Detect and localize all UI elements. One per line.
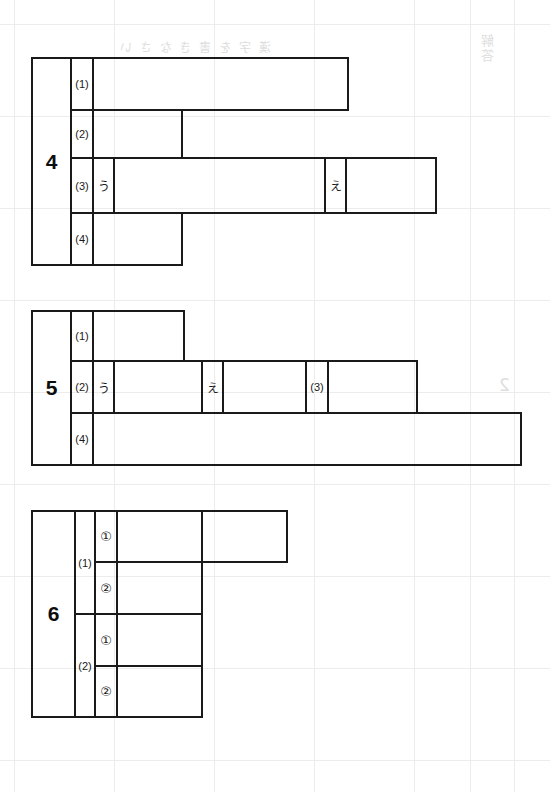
answer-cell-6-2-1[interactable] bbox=[116, 613, 203, 667]
answer-cell-6-1-1-a[interactable] bbox=[116, 510, 203, 563]
answer-cell-5-1[interactable] bbox=[92, 310, 185, 362]
answer-cell-6-1-2[interactable] bbox=[116, 561, 203, 615]
answer-cell-4-3-a[interactable] bbox=[113, 157, 326, 214]
subquestion-label-cell-4-2 bbox=[70, 109, 94, 159]
subsubquestion-label-cell-6-1-1 bbox=[94, 510, 118, 563]
subquestion-label-cell-5-1 bbox=[70, 310, 94, 362]
answer-cell-5-2-b[interactable] bbox=[222, 360, 307, 414]
answer-cell-5-4[interactable] bbox=[92, 412, 522, 466]
subquestion-label-cell-5-4 bbox=[70, 412, 94, 466]
answer-cell-4-3-b[interactable] bbox=[345, 157, 437, 214]
answer-cell-5-3[interactable] bbox=[327, 360, 418, 414]
subsubquestion-label-cell-6-1-2 bbox=[94, 561, 118, 615]
subquestion-label-cell-5-2 bbox=[70, 360, 94, 414]
subquestion-label-cell-6-1 bbox=[74, 510, 96, 615]
answer-marker-cell-5-2-u bbox=[92, 360, 115, 414]
subquestion-label-cell-4-4 bbox=[70, 212, 94, 266]
answer-marker-cell-4-3-e bbox=[324, 157, 347, 214]
subquestion-label-cell-4-3 bbox=[70, 157, 94, 214]
answer-cell-5-2-a[interactable] bbox=[113, 360, 203, 414]
subquestion-label-cell-6-2 bbox=[74, 613, 96, 718]
subsubquestion-label-cell-6-2-1 bbox=[94, 613, 118, 667]
subquestion-label-cell-4-1 bbox=[70, 57, 94, 111]
subquestion-label-cell-5-3 bbox=[305, 360, 329, 414]
answer-cell-6-1-1-b[interactable] bbox=[201, 510, 288, 563]
answer-cell-4-1[interactable] bbox=[92, 57, 349, 111]
answer-cell-6-2-2[interactable] bbox=[116, 665, 203, 718]
answer-marker-cell-4-3-u bbox=[92, 157, 115, 214]
answer-cell-4-2[interactable] bbox=[92, 109, 183, 159]
question-number-cell-6 bbox=[31, 510, 76, 718]
subsubquestion-label-cell-6-2-2 bbox=[94, 665, 118, 718]
answer-cell-4-4[interactable] bbox=[92, 212, 183, 266]
question-number-cell-4 bbox=[31, 57, 72, 266]
answer-marker-cell-5-2-e bbox=[201, 360, 224, 414]
question-number-cell-5 bbox=[31, 310, 72, 466]
